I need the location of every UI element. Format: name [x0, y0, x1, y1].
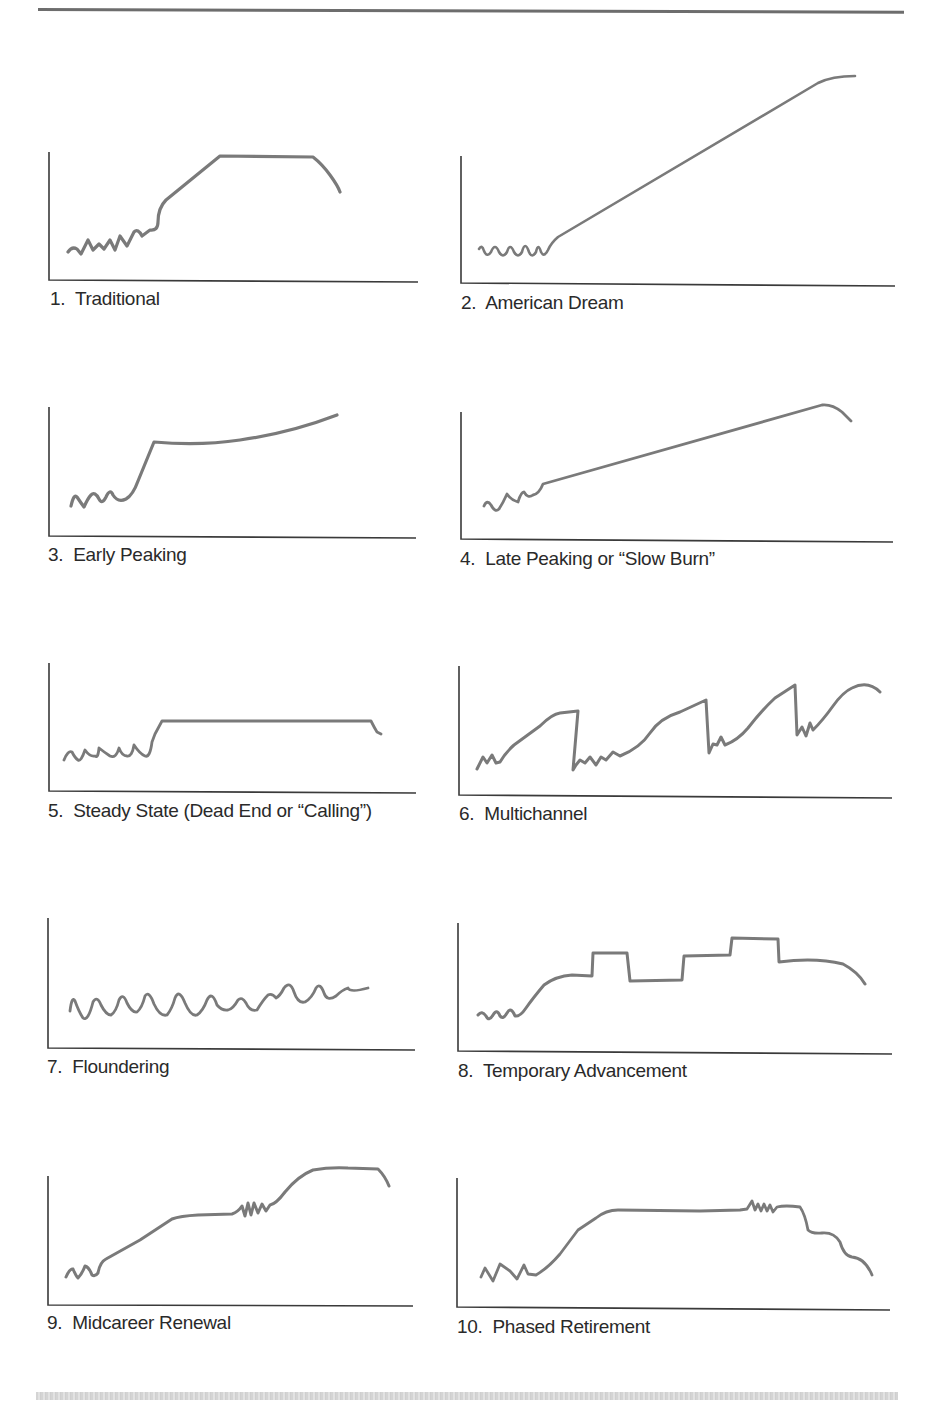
caption-label: Steady State (Dead End or “Calling”): [73, 800, 372, 821]
career-curve: [481, 1201, 872, 1281]
panel-8-temporary-advancement: [458, 923, 892, 1054]
caption-temporary-advancement: 8. Temporary Advancement: [458, 1060, 687, 1082]
career-curve: [477, 685, 880, 770]
axis: [458, 923, 892, 1054]
caption-number: 3.: [48, 544, 63, 565]
career-curve: [66, 1168, 389, 1278]
career-curve: [64, 721, 381, 760]
panel-4-late-peaking: [461, 405, 893, 542]
caption-american-dream: 2. American Dream: [461, 292, 624, 314]
bottom-scan-band: [36, 1392, 898, 1400]
caption-label: Early Peaking: [73, 544, 186, 565]
caption-label: Floundering: [72, 1056, 169, 1077]
caption-midcareer-renewal: 9. Midcareer Renewal: [47, 1312, 231, 1334]
career-curve: [71, 415, 337, 507]
caption-number: 7.: [47, 1056, 62, 1077]
caption-number: 2.: [461, 292, 476, 313]
career-pattern-diagrams: [0, 0, 926, 1402]
caption-label: Phased Retirement: [492, 1316, 650, 1337]
caption-number: 5.: [48, 800, 63, 821]
axis: [459, 666, 892, 798]
caption-number: 9.: [47, 1312, 62, 1333]
caption-traditional: 1. Traditional: [50, 288, 160, 310]
caption-label: Traditional: [75, 288, 160, 309]
caption-number: 8.: [458, 1060, 473, 1081]
caption-early-peaking: 3. Early Peaking: [48, 544, 187, 566]
caption-phased-retirement: 10. Phased Retirement: [457, 1316, 650, 1338]
axis: [48, 1176, 413, 1306]
career-curve: [68, 156, 340, 254]
axis: [461, 156, 895, 286]
caption-label: Late Peaking or “Slow Burn”: [485, 548, 715, 569]
caption-steady-state: 5. Steady State (Dead End or “Calling”): [48, 800, 372, 822]
panel-10-phased-retirement: [457, 1178, 890, 1310]
axis: [48, 918, 415, 1050]
panel-1-traditional: [49, 152, 418, 282]
panel-5-steady-state: [49, 663, 416, 793]
caption-number: 10.: [457, 1316, 483, 1337]
panel-9-midcareer-renewal: [48, 1168, 413, 1306]
axis: [49, 663, 416, 793]
caption-label: American Dream: [485, 292, 623, 313]
caption-number: 1.: [50, 288, 65, 309]
axis: [457, 1178, 890, 1310]
panel-7-floundering: [48, 918, 415, 1050]
caption-label: Multichannel: [484, 803, 587, 824]
panel-6-multichannel: [459, 666, 892, 798]
caption-number: 6.: [459, 803, 474, 824]
caption-floundering: 7. Floundering: [47, 1056, 169, 1078]
caption-label: Temporary Advancement: [483, 1060, 687, 1081]
caption-label: Midcareer Renewal: [72, 1312, 231, 1333]
caption-late-peaking: 4. Late Peaking or “Slow Burn”: [460, 548, 715, 570]
axis: [461, 412, 893, 542]
caption-number: 4.: [460, 548, 475, 569]
career-curve: [484, 405, 851, 510]
axis: [49, 152, 418, 282]
career-curve: [70, 985, 368, 1019]
career-curve: [479, 76, 855, 256]
panel-2-american-dream: [461, 76, 895, 286]
career-curve: [478, 938, 865, 1019]
axis: [49, 407, 416, 538]
panel-3-early-peaking: [49, 407, 416, 538]
caption-multichannel: 6. Multichannel: [459, 803, 587, 825]
